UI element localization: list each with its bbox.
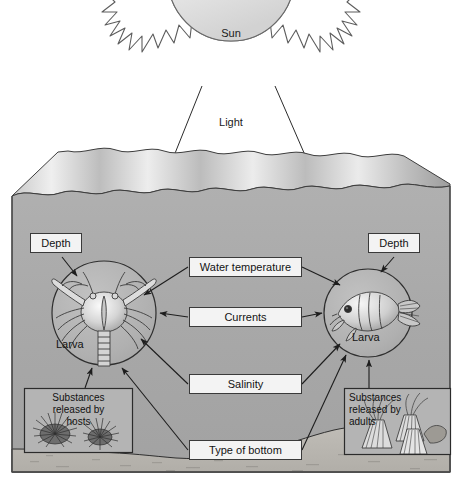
factor-box-salinity[interactable]: Salinity xyxy=(189,374,302,394)
sun-label: Sun xyxy=(0,27,462,39)
left-larva-label: Larva xyxy=(56,338,84,350)
factor-box-water-temperature[interactable]: Water temperature xyxy=(189,257,302,277)
right-panel-caption-line3: adults xyxy=(349,416,448,428)
left-larva-circle xyxy=(52,261,156,366)
right-larva-label: Larva xyxy=(352,331,380,343)
right-panel-caption: Substances released by adults xyxy=(349,392,448,429)
depth-box-right[interactable]: Depth xyxy=(368,233,420,253)
right-panel-caption-line1: Substances xyxy=(349,392,448,404)
factor-box-currents[interactable]: Currents xyxy=(189,307,302,327)
right-panel-caption-line2: released by xyxy=(349,404,448,416)
diagram-canvas: Sun Light Depth Depth Water temperature … xyxy=(0,0,462,482)
factor-box-type-of-bottom[interactable]: Type of bottom xyxy=(189,440,302,460)
left-panel-caption-line3: hosts xyxy=(29,416,128,428)
left-panel-caption-line1: Substances xyxy=(29,392,128,404)
left-panel-caption-line2: released by xyxy=(29,404,128,416)
sun-graphic xyxy=(102,0,360,52)
left-panel-caption: Substances released by hosts xyxy=(29,392,128,429)
depth-box-left[interactable]: Depth xyxy=(30,233,82,253)
light-label: Light xyxy=(0,116,462,128)
